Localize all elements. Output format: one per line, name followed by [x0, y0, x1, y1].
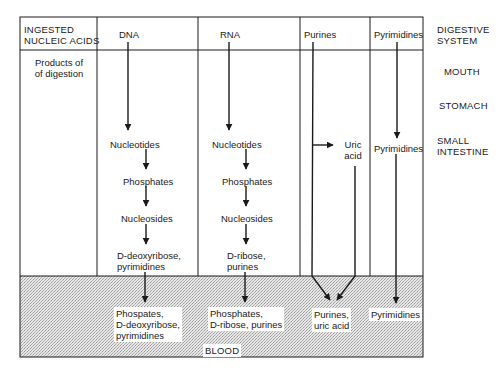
dna-phosphates: Phosphates [123, 176, 173, 187]
column-header-dna: DNA [119, 29, 139, 40]
dna-sugar-base-line2: pyrimidines [117, 261, 181, 272]
column-header-purines: Purines [304, 29, 336, 40]
purines-blood-line1: Purines, [314, 309, 349, 320]
products-of-digestion-label: Products of of digestion [24, 57, 94, 79]
organ-mouth: MOUTH [444, 66, 480, 77]
uric-acid-line2: acid [339, 150, 367, 161]
small-intestine-line2: INTESTINE [437, 146, 488, 157]
uric-acid-label: Uric acid [339, 139, 367, 161]
dna-nucleotides: Nucleotides [110, 139, 160, 150]
rna-nucleotides: Nucleotides [212, 139, 262, 150]
dna-blood-line1: Phospates, [116, 308, 180, 319]
rna-sugar-base: D-ribose, purines [227, 250, 266, 272]
blood-label: BLOOD [203, 344, 241, 357]
rna-blood-products: Phosphates, D-ribose, purines [208, 307, 284, 331]
column-header-rna: RNA [220, 29, 240, 40]
pyrimidines-small-intestine: Pyrimidines [374, 143, 423, 154]
digestive-system-label: DIGESTIVE SYSTEM [437, 24, 489, 46]
dna-sugar-base: D-deoxyribose, pyrimidines [117, 250, 181, 272]
uric-acid-line1: Uric [339, 139, 367, 150]
purines-blood-products: Purines, uric acid [312, 308, 351, 332]
organ-small-intestine: SMALL INTESTINE [437, 135, 488, 157]
row-label-line1: Products of [24, 57, 94, 68]
dna-blood-products: Phospates, D-deoxyribose, pyrimidines [114, 307, 182, 342]
digestive-system-line2: SYSTEM [437, 35, 489, 46]
digestive-system-line1: DIGESTIVE [437, 24, 489, 35]
rna-blood-line1: Phosphates, [210, 308, 282, 319]
rna-sugar-base-line1: D-ribose, [227, 250, 266, 261]
rna-blood-line2: D-ribose, purines [210, 319, 282, 330]
corner-label: INGESTED NUCLEIC ACIDS [24, 24, 99, 46]
dna-blood-line3: pyrimidines [116, 330, 180, 341]
column-header-pyrimidines: Pyrimidines [374, 29, 423, 40]
rna-sugar-base-line2: purines [227, 261, 266, 272]
rna-phosphates: Phosphates [222, 176, 272, 187]
dna-nucleosides: Nucleosides [121, 213, 173, 224]
corner-label-line2: NUCLEIC ACIDS [24, 35, 99, 46]
corner-label-line1: INGESTED [24, 24, 99, 35]
pyrimidines-blood: Pyrimidines [369, 308, 422, 321]
dna-blood-line2: D-deoxyribose, [116, 319, 180, 330]
row-label-line2: of digestion [24, 68, 94, 79]
small-intestine-line1: SMALL [437, 135, 488, 146]
purines-path-left [312, 42, 330, 300]
dna-sugar-base-line1: D-deoxyribose, [117, 250, 181, 261]
purines-blood-line2: uric acid [314, 320, 349, 331]
rna-nucleosides: Nucleosides [221, 213, 273, 224]
organ-stomach: STOMACH [439, 100, 488, 111]
